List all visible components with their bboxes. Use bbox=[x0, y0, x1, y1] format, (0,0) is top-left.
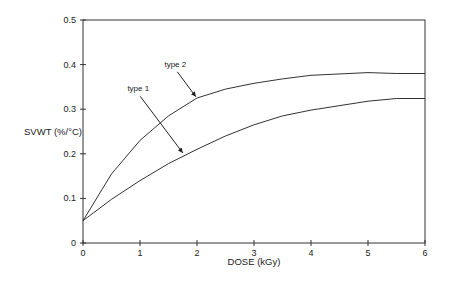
series-layer bbox=[83, 73, 425, 221]
y-tick-label: 0 bbox=[71, 238, 76, 248]
annotation-arrow-type-2 bbox=[177, 72, 196, 97]
x-tick-label: 5 bbox=[365, 248, 370, 258]
plot-frame bbox=[83, 20, 425, 243]
annotation-arrow-type-1 bbox=[140, 96, 182, 153]
y-tick-label: 0.2 bbox=[63, 149, 76, 159]
axes: 00.10.20.30.40.50123456 bbox=[63, 15, 427, 258]
x-tick-label: 2 bbox=[194, 248, 199, 258]
annotation-layer: type 2type 1 bbox=[127, 60, 195, 153]
annotation-label-type-1: type 1 bbox=[127, 84, 149, 93]
x-axis-label: DOSE (kGy) bbox=[228, 256, 281, 267]
x-tick-label: 1 bbox=[137, 248, 142, 258]
y-tick-label: 0.5 bbox=[63, 15, 76, 25]
chart: 00.10.20.30.40.50123456 type 2type 1 DOS… bbox=[0, 0, 449, 282]
y-tick-label: 0.4 bbox=[63, 60, 76, 70]
annotation-label-type-2: type 2 bbox=[164, 60, 186, 69]
x-tick-label: 0 bbox=[80, 248, 85, 258]
y-axis-label: SVWT (%/°C) bbox=[24, 126, 82, 137]
y-tick-label: 0.1 bbox=[63, 193, 76, 203]
x-tick-label: 4 bbox=[308, 248, 313, 258]
series-line-type-1 bbox=[83, 99, 425, 221]
y-tick-label: 0.3 bbox=[63, 104, 76, 114]
series-line-type-2 bbox=[83, 73, 425, 221]
x-tick-label: 6 bbox=[422, 248, 427, 258]
